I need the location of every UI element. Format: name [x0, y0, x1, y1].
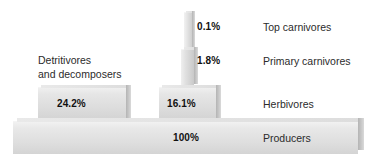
value-top-carnivores: 0.1% [197, 21, 220, 32]
bar-top-carnivores [184, 12, 192, 49]
bar-primary-carnivores [181, 49, 194, 87]
caption-line-1: Detritivores [38, 53, 121, 67]
label-producers: Producers [263, 132, 311, 144]
label-herbivores: Herbivores [263, 98, 314, 110]
value-detritivores-decomposers: 24.2% [57, 98, 86, 109]
energy-pyramid-figure: 0.1% 1.8% 24.2% 16.1% 100% Top carnivore… [0, 0, 376, 168]
label-top-carnivores: Top carnivores [263, 21, 331, 33]
value-herbivores: 16.1% [167, 98, 196, 109]
label-primary-carnivores: Primary carnivores [263, 55, 351, 67]
value-producers: 100% [173, 132, 199, 143]
caption-line-2: and decomposers [38, 67, 121, 81]
caption-detritivores-decomposers: Detritivores and decomposers [38, 53, 121, 81]
value-primary-carnivores: 1.8% [197, 55, 220, 66]
